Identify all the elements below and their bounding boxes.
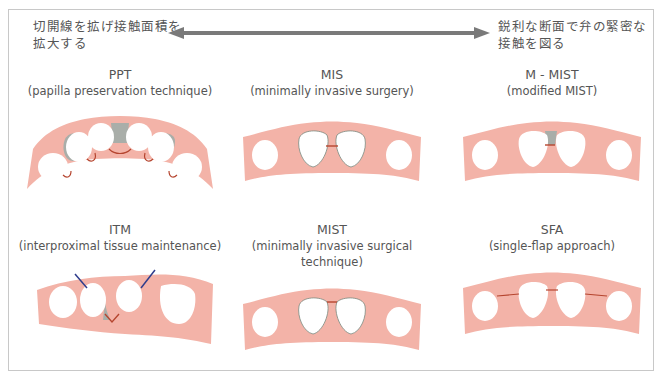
m-mist-incision-diagram	[457, 109, 647, 199]
panel-subtitle: (modified MIST)	[446, 83, 658, 99]
itm-incision-diagram	[25, 264, 215, 354]
header-right-line2: 接触を図る	[498, 35, 647, 52]
sfa-incision-diagram	[457, 264, 647, 354]
panel-ppt: PPT (papilla preservation technique)	[14, 67, 226, 199]
header-left-line2: 拡大する	[33, 35, 182, 52]
panel-sfa: SFA (single-flap approach)	[446, 222, 658, 354]
panel-subtitle: (minimally invasive surgery)	[226, 83, 438, 99]
double-headed-arrow-icon	[168, 26, 490, 40]
panel-title: PPT	[14, 67, 226, 83]
panel-subtitle: (minimally invasive surgical technique)	[226, 238, 438, 270]
panel-mis: MIS (minimally invasive surgery)	[226, 67, 438, 199]
header-left-text: 切開線を拡げ接触面積を 拡大する	[33, 18, 182, 52]
header-left-line1: 切開線を拡げ接触面積を	[33, 18, 182, 35]
mist-incision-diagram	[237, 280, 427, 370]
header-right-text: 鋭利な断面で弁の緊密な 接触を図る	[498, 18, 647, 52]
panel-title: MIS	[226, 67, 438, 83]
panel-title: MIST	[226, 222, 438, 238]
mis-incision-diagram	[237, 109, 427, 199]
ppt-incision-diagram	[25, 109, 215, 199]
panel-title: SFA	[446, 222, 658, 238]
panel-m-mist: M - MIST (modified MIST)	[446, 67, 658, 199]
panel-title: M - MIST	[446, 67, 658, 83]
panel-title: ITM	[14, 222, 226, 238]
panel-itm: ITM (interproximal tissue maintenance)	[14, 222, 226, 354]
panel-subtitle: (papilla preservation technique)	[14, 83, 226, 99]
header-right-line1: 鋭利な断面で弁の緊密な	[498, 18, 647, 35]
panel-mist: MIST (minimally invasive surgical techni…	[226, 222, 438, 370]
panel-subtitle: (single-flap approach)	[446, 238, 658, 254]
panel-subtitle: (interproximal tissue maintenance)	[14, 238, 226, 254]
